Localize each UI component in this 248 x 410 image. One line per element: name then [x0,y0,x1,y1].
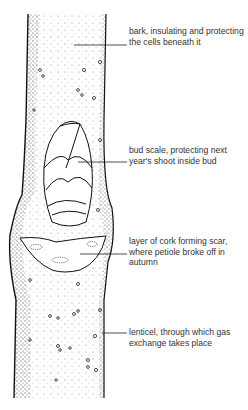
label-lenticel: lenticel, through which gas exchange tak… [129,327,247,348]
twig-illustration [0,0,248,410]
label-leaf-scar: layer of cork forming scar, where petiol… [129,236,247,268]
label-bark: bark, insulating and protecting the cell… [129,26,247,47]
label-bud-scale: bud scale, protecting next year's shoot … [129,145,247,166]
